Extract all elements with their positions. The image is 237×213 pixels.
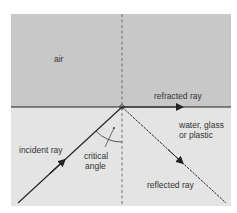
incident-ray-label: incident ray [19,145,62,155]
reflected-ray-label: reflected ray [147,180,194,190]
ray-diagram [0,0,237,213]
refracted-ray-label: refracted ray [154,91,202,101]
critical-angle-label-line2: angle [85,161,106,171]
air-label: air [54,54,63,64]
incident-ray-arrow [50,162,63,174]
medium-label-line1: water, glass [179,120,224,130]
critical-angle-arc [96,131,122,142]
angle-pointer [105,128,114,147]
critical-angle-label-line1: critical [84,151,108,161]
medium-label-line2: or plastic [179,130,213,140]
reflected-ray-arrow [168,150,181,162]
